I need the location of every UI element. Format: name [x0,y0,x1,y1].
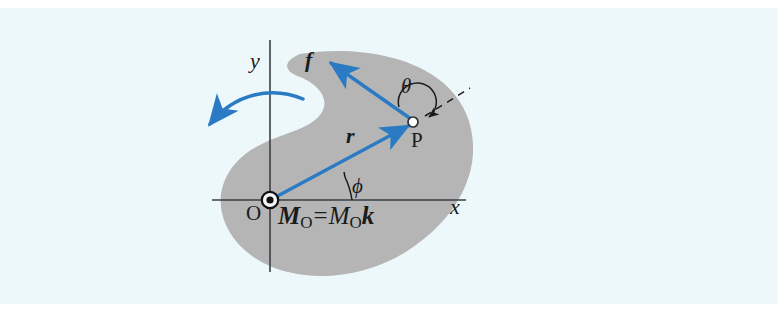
moment-diagram-figure: y x O P f r θ ϕ MO=MOk [0,0,778,317]
moment-vector-subscript: O [300,213,312,232]
counterclockwise-moment-arrow [210,93,303,124]
origin-label: O [246,203,261,224]
point-p-marker [408,117,418,127]
moment-vector-symbol: M [278,202,300,229]
force-vector-label: f [305,49,312,71]
k-unit-vector-symbol: k [362,202,375,229]
origin-marker-k-out-of-page [262,192,278,208]
theta-angle-label: θ [401,76,411,97]
position-vector-label: r [346,125,355,147]
diagram-canvas [0,0,778,317]
y-axis-label: y [250,50,260,72]
moment-magnitude-symbol: M [329,202,350,229]
x-axis-label: x [450,196,460,218]
equals-sign: = [313,202,329,229]
phi-angle-label: ϕ [352,176,363,197]
moment-magnitude-subscript: O [349,213,361,232]
rigid-body-shape [221,51,473,276]
point-p-label: P [411,130,423,151]
moment-equation: MO=MOk [278,203,374,231]
